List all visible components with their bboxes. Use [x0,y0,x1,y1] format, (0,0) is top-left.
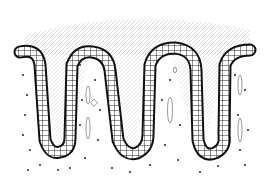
stroma-upper [25,19,250,55]
epithelium-drawing [0,0,271,190]
illustration: histological drawing of folded epitheliu… [0,0,271,190]
